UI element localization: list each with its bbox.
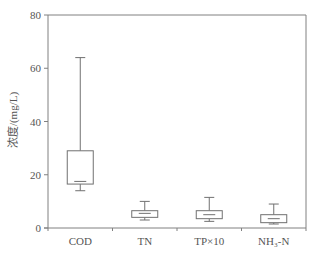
x-tick-label: TN bbox=[137, 235, 152, 247]
x-axis: CODTNTP×10NH₃-N bbox=[44, 228, 306, 247]
x-tick-label: COD bbox=[69, 235, 92, 247]
y-tick-label: 80 bbox=[30, 9, 42, 21]
y-axis-title: 浓度/(mg/L) bbox=[6, 92, 20, 149]
x-tick-label: TP×10 bbox=[194, 235, 225, 247]
y-tick-label: 20 bbox=[30, 169, 42, 181]
plot-frame bbox=[48, 15, 306, 228]
y-tick-label: 40 bbox=[30, 116, 42, 128]
y-tick-label: 0 bbox=[36, 222, 42, 234]
iqr-box bbox=[67, 151, 93, 184]
iqr-box bbox=[132, 211, 158, 218]
box-tp-10 bbox=[196, 197, 222, 221]
box-plot-chart: 020406080 CODTNTP×10NH₃-N 浓度/(mg/L) bbox=[0, 0, 316, 256]
box-tn bbox=[132, 201, 158, 220]
y-axis: 020406080 bbox=[30, 9, 48, 234]
box-series bbox=[67, 58, 287, 224]
box-nh-n bbox=[261, 204, 287, 224]
box-cod bbox=[67, 58, 93, 191]
y-tick-label: 60 bbox=[30, 62, 42, 74]
x-tick-label: NH₃-N bbox=[258, 235, 289, 247]
